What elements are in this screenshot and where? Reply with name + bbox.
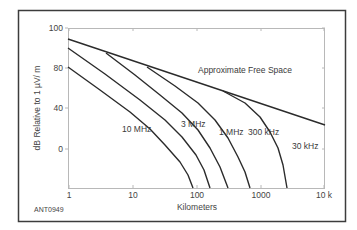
x-tick-label: 10 [128,190,138,200]
curve-label: 3 MHz [181,119,206,129]
chart: 110100100010 k 10080400 Approximate Free… [0,0,357,230]
x-tick-label: 100 [190,190,204,200]
x-tick-label: 1000 [252,190,271,200]
x-tick-label: 1 [67,190,72,200]
curve-label: 300 kHz [248,127,279,137]
figure-id: ANT0949 [34,206,64,213]
y-tick-label: 100 [49,23,63,33]
curve-label: 10 MHz [122,124,151,134]
y-tick-label: 80 [54,63,64,73]
curve-label: 1 MHz [219,127,244,137]
y-axis-label: dB Relative to 1 µV/ m [32,66,42,151]
y-tick-label: 0 [58,144,63,154]
curve-label: Approximate Free Space [198,65,292,75]
x-tick-label: 10 k [316,190,333,200]
curve-label: 30 kHz [292,141,318,151]
x-axis-label: Kilometers [177,202,217,212]
y-tick-label: 40 [54,103,64,113]
